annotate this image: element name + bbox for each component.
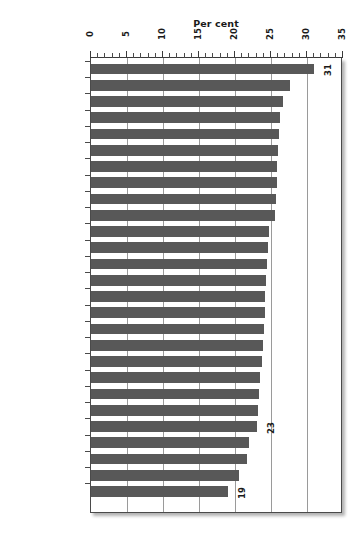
x-tick-label: 20 [228, 25, 240, 43]
category-tick [85, 370, 90, 371]
x-tick-minor [148, 53, 149, 58]
bar [91, 421, 257, 432]
x-tick-major [342, 51, 343, 58]
category-tick [85, 418, 90, 419]
x-tick-major [198, 51, 199, 58]
x-tick-major [126, 51, 127, 58]
bar [91, 454, 247, 465]
x-tick-minor [119, 53, 120, 58]
x-tick-minor [313, 53, 314, 58]
x-tick-minor [284, 53, 285, 58]
category-tick [85, 240, 90, 241]
x-tick-minor [191, 53, 192, 58]
x-tick-label: 0 [84, 25, 96, 43]
bar [91, 470, 239, 481]
category-tick [85, 321, 90, 322]
x-tick-minor [169, 53, 170, 58]
bar [91, 405, 258, 416]
bar [91, 259, 267, 270]
plot-area [90, 58, 342, 513]
x-tick-minor [292, 53, 293, 58]
bar [91, 372, 260, 383]
bar [91, 112, 280, 123]
bar [91, 340, 263, 351]
x-tick-label: 35 [336, 25, 348, 43]
x-tick-label: 5 [120, 25, 132, 43]
x-tick-major [162, 51, 163, 58]
x-tick-minor [155, 53, 156, 58]
x-tick-minor [212, 53, 213, 58]
x-tick-major [306, 51, 307, 58]
x-tick-minor [104, 53, 105, 58]
x-tick-minor [184, 53, 185, 58]
x-tick-minor [328, 53, 329, 58]
category-tick [85, 272, 90, 273]
category-tick [85, 305, 90, 306]
x-tick-minor [220, 53, 221, 58]
bar [91, 96, 283, 107]
x-tick-minor [140, 53, 141, 58]
bar [91, 389, 259, 400]
category-tick [85, 93, 90, 94]
category-tick [85, 191, 90, 192]
bar [91, 145, 278, 156]
x-tick-minor [263, 53, 264, 58]
x-tick-minor [320, 53, 321, 58]
bar [91, 307, 265, 318]
bar-value-label: 23 [266, 422, 276, 434]
category-tick [85, 353, 90, 354]
x-tick-minor [205, 53, 206, 58]
category-tick [85, 288, 90, 289]
gridline [271, 58, 272, 512]
gridline [307, 58, 308, 512]
x-tick-minor [335, 53, 336, 58]
bar [91, 486, 228, 497]
x-tick-minor [227, 53, 228, 58]
category-tick [85, 467, 90, 468]
x-tick-label: 25 [264, 25, 276, 43]
x-tick-minor [133, 53, 134, 58]
category-tick [85, 435, 90, 436]
bar [91, 129, 279, 140]
category-tick [85, 110, 90, 111]
bar [91, 437, 249, 448]
bar [91, 210, 275, 221]
bar [91, 356, 262, 367]
x-tick-minor [97, 53, 98, 58]
category-tick [85, 386, 90, 387]
category-tick [85, 451, 90, 452]
x-tick-label: 10 [156, 25, 168, 43]
x-tick-minor [241, 53, 242, 58]
bar-value-label: 31 [323, 65, 333, 77]
x-tick-label: 30 [300, 25, 312, 43]
x-tick-major [270, 51, 271, 58]
x-tick-minor [277, 53, 278, 58]
category-tick [85, 256, 90, 257]
category-tick [85, 402, 90, 403]
bar [91, 324, 264, 335]
category-tick [85, 61, 90, 62]
category-tick [85, 77, 90, 78]
category-tick [85, 158, 90, 159]
x-tick-major [234, 51, 235, 58]
category-tick [85, 126, 90, 127]
bar [91, 226, 269, 237]
x-tick-label: 15 [192, 25, 204, 43]
category-tick [85, 337, 90, 338]
x-tick-minor [112, 53, 113, 58]
category-tick [85, 142, 90, 143]
x-tick-minor [176, 53, 177, 58]
bar [91, 291, 265, 302]
bar [91, 242, 268, 253]
x-tick-minor [248, 53, 249, 58]
category-tick [85, 223, 90, 224]
x-tick-minor [299, 53, 300, 58]
bar-value-label: 19 [237, 487, 247, 499]
category-tick [85, 483, 90, 484]
bar [91, 161, 277, 172]
bar [91, 194, 276, 205]
x-tick-major [90, 51, 91, 58]
category-tick [85, 207, 90, 208]
bar [91, 64, 314, 75]
chart-root: Per cent 05101520253035 GermanyItalyAust… [0, 0, 359, 536]
